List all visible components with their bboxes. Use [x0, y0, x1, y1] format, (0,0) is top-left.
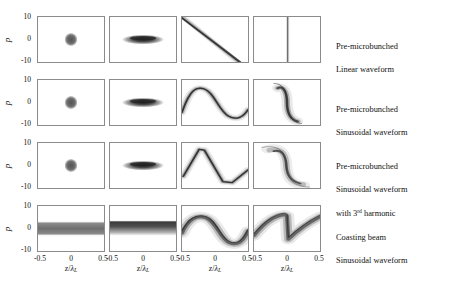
panel-r4c2	[109, 205, 177, 252]
caption-line-1: Pre-microbunched	[336, 104, 407, 115]
y-tick-bottom: -10	[21, 246, 31, 254]
y-axis-ticks: p 10 0 -10	[0, 16, 33, 63]
panel-r3c1	[37, 142, 105, 189]
y-axis-ticks: p 10 0 -10	[0, 205, 33, 252]
caption-line-1: Coasting beam	[336, 232, 407, 243]
y-tick-mid: 0	[27, 98, 31, 106]
panel-r1c3	[181, 16, 249, 63]
caption-line-2: Sinusoidal waveform	[336, 255, 407, 266]
row-caption-4: Coasting beam Sinusoidal waveform	[336, 221, 407, 277]
panel-r4c1	[37, 205, 105, 252]
caption-line-2: Sinusoidal waveform	[336, 127, 407, 138]
y-axis-label: p	[3, 100, 12, 105]
row-caption-1: Pre-microbunched Linear waveform	[336, 30, 398, 86]
x-tick-left: -0.5	[106, 254, 118, 263]
y-tick-mid: 0	[27, 224, 31, 232]
panel-r2c1	[37, 79, 105, 126]
y-axis-ticks: p 10 0 -10	[0, 79, 33, 126]
caption-line-1: Pre-microbunched	[336, 41, 398, 52]
row-caption-2: Pre-microbunched Sinusoidal waveform	[336, 93, 407, 149]
x-tick-right: 0.5	[314, 254, 323, 263]
y-tick-top: 10	[24, 13, 32, 21]
panel-r1c4	[253, 16, 321, 63]
panel-r3c3	[181, 142, 249, 189]
panel-r3c4	[253, 142, 321, 189]
figure-row: p 10 0 -10	[0, 16, 452, 79]
panel-r4c3	[181, 205, 249, 252]
x-axis-label-subscript: L	[146, 267, 149, 273]
y-tick-mid: 0	[27, 161, 31, 169]
x-axis-label: z/λL	[181, 264, 249, 273]
x-tick-mid: 0	[213, 254, 217, 263]
phase-space-figure: p 10 0 -10	[0, 0, 452, 300]
y-tick-mid: 0	[27, 35, 31, 43]
panel-r1c1	[37, 16, 105, 63]
panel-r2c3	[181, 79, 249, 126]
panel-r2c4	[253, 79, 321, 126]
y-axis-label: p	[3, 226, 12, 231]
panel-r1c2	[109, 16, 177, 63]
x-tick-left: -0.5	[178, 254, 190, 263]
y-tick-bottom: -10	[21, 120, 31, 128]
figure-row: p 10 0 -10	[0, 142, 452, 205]
panel-r4c4	[253, 205, 321, 252]
y-tick-top: 10	[24, 202, 32, 210]
x-axis-ticks: -0.5 0 0.5 z/λL	[37, 254, 105, 264]
x-axis-label-subscript: L	[218, 267, 221, 273]
y-axis-ticks: p 10 0 -10	[0, 142, 33, 189]
x-tick-left: -0.5	[34, 254, 46, 263]
y-axis-label: p	[3, 37, 12, 42]
x-axis-label-subscript: L	[290, 267, 293, 273]
caption-line-2: Linear waveform	[336, 64, 398, 75]
y-tick-bottom: -10	[21, 183, 31, 191]
x-axis-label-subscript: L	[74, 267, 77, 273]
figure-row: p 10 0 -10	[0, 79, 452, 142]
y-tick-bottom: -10	[21, 57, 31, 65]
y-axis-label: p	[3, 163, 12, 168]
panel-r2c2	[109, 79, 177, 126]
panel-r3c2	[109, 142, 177, 189]
y-tick-top: 10	[24, 139, 32, 147]
x-tick-mid: 0	[69, 254, 73, 263]
caption-line-1: Pre-microbunched	[336, 161, 407, 172]
caption-line-2: Sinusoidal waveform	[336, 184, 407, 195]
x-tick-mid: 0	[285, 254, 289, 263]
x-axis-ticks: -0.5 0 0.5 z/λL	[181, 254, 249, 264]
x-tick-mid: 0	[141, 254, 145, 263]
x-tick-left: -0.5	[250, 254, 262, 263]
y-tick-top: 10	[24, 76, 32, 84]
x-axis-label: z/λL	[253, 264, 321, 273]
x-axis-label: z/λL	[37, 264, 105, 273]
x-axis-label: z/λL	[109, 264, 177, 273]
x-axis-ticks: -0.5 0 0.5 z/λL	[109, 254, 177, 264]
x-axis-ticks: -0.5 0 0.5 z/λL	[253, 254, 321, 264]
